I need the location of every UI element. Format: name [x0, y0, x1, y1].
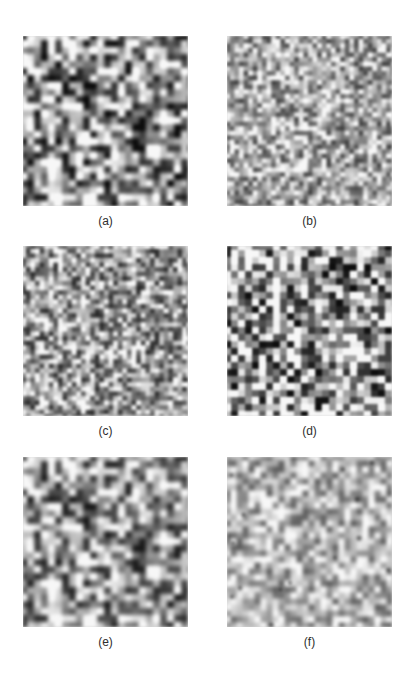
texture-image-b: [227, 36, 392, 206]
caption-d: (d): [227, 424, 392, 438]
figure: (a) (b) (c) (d) (e) (f): [0, 0, 412, 686]
texture-image-f: [227, 457, 392, 627]
caption-f: (f): [227, 635, 392, 649]
caption-a: (a): [23, 214, 188, 228]
texture-image-d: [227, 246, 392, 416]
caption-b: (b): [227, 214, 392, 228]
caption-c: (c): [23, 424, 188, 438]
panel-f: (f): [227, 457, 392, 627]
panel-a: (a): [23, 36, 188, 206]
panel-b: (b): [227, 36, 392, 206]
panel-c: (c): [23, 246, 188, 416]
texture-image-c: [23, 246, 188, 416]
texture-image-a: [23, 36, 188, 206]
panel-d: (d): [227, 246, 392, 416]
panel-e: (e): [23, 457, 188, 627]
texture-image-e: [23, 457, 188, 627]
caption-e: (e): [23, 635, 188, 649]
